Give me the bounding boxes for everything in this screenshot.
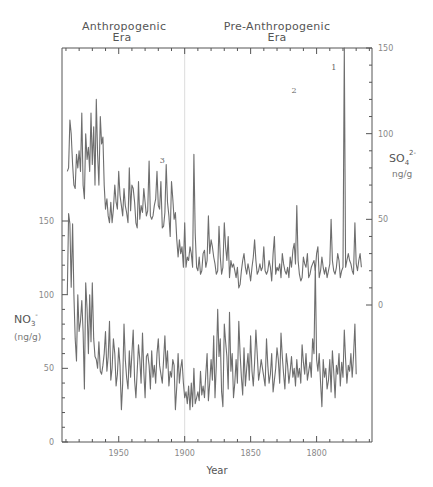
svg-text:0: 0	[49, 438, 54, 447]
svg-text:150: 150	[39, 217, 54, 226]
svg-text:0: 0	[378, 301, 383, 310]
so4-series-line	[67, 48, 361, 288]
right-axis-units: ng/g	[392, 169, 412, 179]
axes: 1950190018501800050100150050100150	[39, 44, 394, 458]
svg-text:1900: 1900	[175, 449, 195, 458]
svg-text:1950: 1950	[109, 449, 129, 458]
svg-text:1850: 1850	[240, 449, 260, 458]
peak-annotation: 1	[331, 63, 336, 72]
x-axis-title: Year	[205, 465, 228, 476]
peak-annotation: 2	[292, 86, 297, 95]
peak-annotation: 3	[160, 156, 165, 165]
right-axis-title: SO42-	[389, 149, 417, 167]
svg-text:100: 100	[39, 291, 54, 300]
svg-text:100: 100	[378, 130, 393, 139]
svg-text:50: 50	[378, 215, 388, 224]
left-axis-units: (ng/g)	[14, 332, 41, 342]
svg-text:150: 150	[378, 44, 393, 53]
peak-annotations: 123	[160, 63, 337, 165]
left-axis-title: NO3-	[14, 311, 38, 328]
svg-text:50: 50	[44, 364, 54, 373]
chart-canvas: 1950190018501800050100150050100150 123 Y…	[0, 0, 433, 487]
svg-text:1800: 1800	[306, 449, 326, 458]
